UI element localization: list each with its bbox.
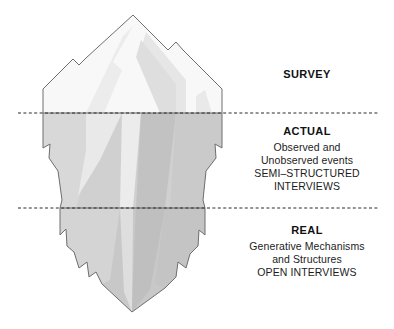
label-line-real-2: and Structures (226, 253, 388, 266)
above-water-body (43, 15, 222, 113)
real-facet-left (60, 208, 120, 284)
label-line-actual-3: SEMI–STRUCTURED (232, 167, 382, 180)
label-line-real-1: Generative Mechanisms (226, 240, 388, 253)
iceberg-actual-band (43, 113, 222, 208)
label-block-survey: SURVEY (232, 68, 382, 81)
label-block-actual: ACTUAL Observed and Unobserved events SE… (232, 125, 382, 193)
label-heading-real: REAL (226, 224, 388, 237)
iceberg-diagram: SURVEY ACTUAL Observed and Unobserved ev… (0, 0, 394, 329)
label-block-real: REAL Generative Mechanisms and Structure… (226, 224, 388, 279)
label-heading-actual: ACTUAL (232, 125, 382, 138)
iceberg-above-water (43, 15, 222, 113)
iceberg-real-band (60, 208, 205, 312)
label-line-actual-1: Observed and (232, 141, 382, 154)
label-heading-survey: SURVEY (232, 68, 382, 81)
label-line-actual-4: INTERVIEWS (232, 180, 382, 193)
label-line-actual-2: Unobserved events (232, 154, 382, 167)
label-line-real-3: OPEN INTERVIEWS (226, 266, 388, 279)
